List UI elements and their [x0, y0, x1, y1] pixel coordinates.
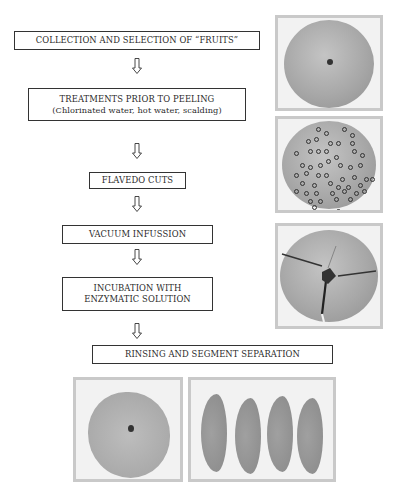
cut-mark-icon: [318, 163, 323, 168]
step-rinsing-box: RINSING AND SEGMENT SEPARATION: [92, 345, 333, 364]
cut-mark-icon: [316, 173, 321, 178]
cut-mark-icon: [328, 141, 333, 146]
step-sublabel: ENZYMATIC SOLUTION: [84, 294, 191, 305]
cut-mark-icon: [358, 163, 363, 168]
cut-mark-icon: [308, 165, 313, 170]
step-label: RINSING AND SEGMENT SEPARATION: [125, 349, 300, 360]
perforated-fruit-photo: [275, 116, 383, 213]
cut-mark-icon: [304, 171, 309, 176]
scored-fruit-photo: [275, 223, 383, 329]
cut-mark-icon: [348, 197, 353, 202]
step-label: VACUUM INFUSSION: [89, 229, 186, 240]
cut-mark-icon: [334, 197, 339, 202]
cut-mark-icon: [300, 181, 305, 186]
cut-mark-icon: [308, 199, 313, 204]
cut-mark-icon: [364, 177, 369, 182]
cut-mark-icon: [316, 149, 321, 154]
step-flavedo-cuts-box: FLAVEDO CUTS: [89, 172, 186, 189]
down-arrow-icon: [132, 249, 142, 265]
cut-mark-icon: [348, 165, 353, 170]
cut-mark-icon: [324, 173, 329, 178]
cut-mark-icon: [304, 191, 309, 196]
segments-photo: [188, 377, 336, 482]
cut-mark-icon: [306, 139, 311, 144]
cut-mark-icon: [340, 177, 345, 182]
cut-mark-icon: [350, 141, 355, 146]
cut-mark-icon: [314, 137, 319, 142]
step-label: TREATMENTS PRIOR TO PEELING: [60, 94, 215, 105]
cut-mark-icon: [330, 191, 335, 196]
down-arrow-icon: [132, 58, 142, 74]
whole-fruit-photo: [275, 15, 383, 111]
step-incubation-box: INCUBATION WITH ENZYMATIC SOLUTION: [62, 277, 213, 311]
cut-mark-icon: [294, 151, 299, 156]
down-arrow-icon: [132, 323, 142, 339]
cut-mark-icon: [352, 149, 357, 154]
cut-mark-icon: [314, 191, 319, 196]
cut-mark-icon: [342, 189, 347, 194]
cut-mark-icon: [334, 155, 339, 160]
cut-mark-icon: [294, 189, 299, 194]
step-label: FLAVEDO CUTS: [102, 175, 173, 186]
cut-mark-icon: [300, 163, 305, 168]
cut-mark-icon: [338, 163, 343, 168]
cut-mark-icon: [324, 131, 329, 136]
peeled-fruit-photo: [73, 377, 183, 482]
cut-mark-icon: [358, 183, 363, 188]
cut-mark-icon: [346, 185, 351, 190]
cut-mark-icon: [336, 209, 341, 210]
cut-mark-icon: [294, 173, 299, 178]
cut-mark-icon: [326, 159, 331, 164]
cut-mark-icon: [362, 189, 367, 194]
cut-mark-icon: [354, 191, 359, 196]
cut-mark-icon: [318, 199, 323, 204]
cut-mark-icon: [336, 185, 341, 190]
cut-mark-icon: [360, 153, 365, 158]
down-arrow-icon: [132, 196, 142, 212]
cut-mark-icon: [316, 127, 321, 132]
step-sublabel: (Chlorinated water, hot water, scalding): [52, 105, 221, 116]
step-label: INCUBATION WITH: [94, 283, 182, 294]
cut-mark-icon: [328, 181, 333, 186]
cut-mark-icon: [370, 177, 375, 182]
step-label: COLLECTION AND SELECTION OF “FRUITS”: [36, 35, 238, 46]
step-vacuum-infusion-box: VACUUM INFUSSION: [62, 225, 213, 244]
cut-mark-icon: [312, 183, 317, 188]
step-collection-box: COLLECTION AND SELECTION OF “FRUITS”: [14, 31, 260, 50]
cut-mark-icon: [342, 127, 347, 132]
cut-mark-icon: [336, 141, 341, 146]
cut-mark-icon: [312, 205, 317, 210]
step-treatments-box: TREATMENTS PRIOR TO PEELING (Chlorinated…: [28, 88, 246, 121]
cut-mark-icon: [308, 149, 313, 154]
cut-mark-icon: [352, 175, 357, 180]
down-arrow-icon: [132, 143, 142, 159]
cut-mark-icon: [324, 149, 329, 154]
cut-mark-icon: [350, 133, 355, 138]
